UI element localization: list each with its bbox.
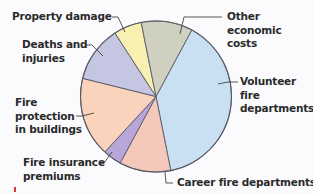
label-line: Other: [227, 10, 281, 24]
label-property-damage: Property damage: [12, 10, 112, 24]
label-volunteer: Volunteer fire departments: [240, 75, 313, 116]
label-fire-insurance: Fire insurance premiums: [23, 156, 105, 183]
label-line: protection: [15, 110, 82, 124]
label-line: departments: [240, 102, 313, 116]
label-line: premiums: [23, 170, 105, 184]
label-line: Property damage: [12, 10, 112, 24]
label-line: Career fire departments: [177, 176, 313, 190]
label-line: fire: [240, 89, 313, 103]
leader-career: [165, 172, 173, 183]
label-line: costs: [227, 37, 281, 51]
label-line: economic: [227, 24, 281, 38]
label-fire-protection: Fire protection in buildings: [15, 96, 82, 137]
label-other-economic: Other economic costs: [227, 10, 281, 51]
decorative-mark: [14, 187, 16, 192]
label-line: injuries: [22, 52, 87, 66]
label-line: Fire: [15, 96, 82, 110]
label-line: in buildings: [15, 123, 82, 137]
label-line: Volunteer: [240, 75, 313, 89]
label-line: Fire insurance: [23, 156, 105, 170]
label-deaths-injuries: Deaths and injuries: [22, 38, 87, 65]
pie-slices: [80, 21, 231, 172]
label-career: Career fire departments: [177, 176, 313, 190]
label-line: Deaths and: [22, 38, 87, 52]
